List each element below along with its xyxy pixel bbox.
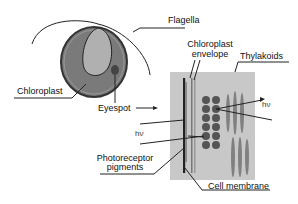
label-chloroplast-envelope-2: envelope [180,50,240,59]
label-hv-left: hν [135,129,143,138]
label-chloroplast: Chloroplast [17,87,63,96]
eyespot [111,65,119,75]
label-cell-membrane: Cell membrane [208,182,269,191]
label-eyespot: Eyespot [98,104,131,113]
diagram-canvas [0,0,298,204]
label-chloroplast-envelope-1: Chloroplast [180,40,240,49]
label-thylakoids: Thylakoids [240,52,283,61]
label-flagella: Flagella [168,16,200,25]
label-photoreceptor-2: pigments [90,163,160,172]
label-hv-right: hν [262,100,270,109]
photoreceptor-strip [185,82,187,162]
leader-thylakoids [235,62,289,72]
leader-flagella [133,28,185,32]
chloroplast-envelope-outer [191,78,193,173]
chloroplast-envelope-inner [194,78,196,173]
cell-membrane [183,78,185,173]
arrow-head [153,106,158,110]
